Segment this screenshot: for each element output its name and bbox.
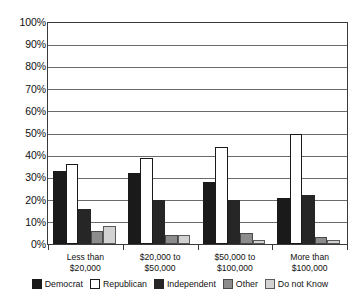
y-axis-tick-20: 20% (2, 195, 46, 206)
bar (165, 235, 178, 244)
legend-label: Republican (103, 279, 147, 289)
grouped-bar-chart: 100%90%80%70%60%50%40%30%20%10%0% Less t… (0, 0, 360, 301)
bar (140, 158, 153, 244)
bars-layer (48, 23, 347, 244)
x-axis-label: Less than$20,000 (48, 252, 123, 273)
bar (290, 134, 303, 245)
bar (277, 198, 290, 244)
x-axis-tick (272, 245, 273, 250)
legend-item-independent[interactable]: Independent (154, 279, 216, 289)
bar (153, 200, 166, 244)
x-axis-label-line: More than (272, 252, 347, 263)
y-axis-tick-90: 90% (2, 39, 46, 50)
bar-group (272, 23, 347, 244)
legend-label: Independent (167, 279, 216, 289)
bar (203, 182, 216, 244)
y-axis-tick-100: 100% (2, 17, 46, 28)
legend-item-democrat[interactable]: Democrat (32, 279, 83, 289)
bar (228, 200, 241, 244)
bar (240, 233, 253, 244)
x-axis-tick (347, 245, 348, 250)
legend-item-republican[interactable]: Republican (90, 279, 147, 289)
x-axis-label-line: $20,000 (48, 263, 123, 274)
bar (178, 235, 191, 244)
legend-item-other[interactable]: Other (223, 279, 258, 289)
x-axis-label: More than$100,000 (272, 252, 347, 273)
legend-item-do-not-know[interactable]: Do not Know (265, 279, 328, 289)
x-axis-tick (48, 245, 49, 250)
x-axis-label-line: Less than (48, 252, 123, 263)
bar (128, 173, 141, 244)
legend-swatch-icon (90, 279, 100, 289)
y-axis-tick-60: 60% (2, 106, 46, 117)
legend-label: Democrat (45, 279, 83, 289)
x-axis-tick (123, 245, 124, 250)
x-axis-label-line: $20,000 to (123, 252, 198, 263)
x-axis-label: $20,000 to$50,000 (123, 252, 198, 273)
legend-label: Do not Know (278, 279, 328, 289)
bar (78, 209, 91, 244)
legend-swatch-icon (265, 279, 275, 289)
x-axis-label-line: $100,000 (272, 263, 347, 274)
bar (66, 164, 79, 244)
y-axis-tick-10: 10% (2, 217, 46, 228)
bar (91, 231, 104, 244)
y-axis-tick-50: 50% (2, 128, 46, 139)
legend-swatch-icon (154, 279, 164, 289)
y-axis-tick-40: 40% (2, 150, 46, 161)
bar (253, 240, 266, 244)
bar-group (48, 23, 123, 244)
bar-group (198, 23, 273, 244)
x-axis-tick (198, 245, 199, 250)
bar (315, 237, 328, 244)
y-axis-tick-0: 0% (2, 239, 46, 250)
bar (53, 171, 66, 244)
x-axis-label-line: $50,000 (123, 263, 198, 274)
legend-swatch-icon (223, 279, 233, 289)
legend-swatch-icon (32, 279, 42, 289)
x-axis-label: $50,000 to$100,000 (198, 252, 273, 273)
bar (215, 147, 228, 244)
x-axis-label-line: $50,000 to (198, 252, 273, 263)
chart-legend: DemocratRepublicanIndependentOtherDo not… (0, 279, 360, 289)
bar (327, 240, 340, 244)
y-axis-tick-80: 80% (2, 61, 46, 72)
bar (302, 195, 315, 244)
y-axis-tick-30: 30% (2, 172, 46, 183)
bar (103, 226, 116, 244)
y-axis-tick-70: 70% (2, 84, 46, 95)
x-axis-label-line: $100,000 (198, 263, 273, 274)
legend-label: Other (236, 279, 258, 289)
bar-group (123, 23, 198, 244)
